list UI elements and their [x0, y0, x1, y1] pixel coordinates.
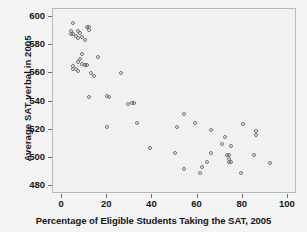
data-point — [223, 135, 227, 139]
data-point — [229, 144, 233, 148]
data-point — [220, 142, 224, 146]
data-point — [87, 28, 91, 32]
data-point — [80, 52, 84, 56]
x-tick-label: 0 — [46, 199, 76, 209]
data-point — [193, 121, 197, 125]
data-point — [205, 160, 209, 164]
data-point — [132, 101, 136, 105]
x-tick-label: 20 — [91, 199, 121, 209]
data-point — [198, 171, 202, 175]
y-tick-mark — [48, 16, 52, 17]
data-point — [175, 125, 179, 129]
data-point — [268, 161, 272, 165]
data-point — [252, 153, 256, 157]
y-tick-mark — [48, 72, 52, 73]
data-point — [173, 151, 177, 155]
x-tick-label: 80 — [227, 199, 257, 209]
data-point — [119, 71, 123, 75]
y-tick-mark — [48, 129, 52, 130]
data-point — [71, 21, 75, 25]
data-point — [83, 38, 87, 42]
data-point — [209, 128, 213, 132]
data-point — [239, 171, 243, 175]
y-tick-mark — [48, 44, 52, 45]
y-axis-title: Average SAT verbal in 2005 — [22, 9, 33, 189]
data-point — [92, 74, 96, 78]
data-point — [241, 122, 245, 126]
plot-area — [52, 8, 296, 193]
x-axis-title: Percentage of Eligible Students Taking t… — [0, 215, 307, 226]
data-point — [105, 125, 109, 129]
data-point — [76, 36, 80, 40]
data-point — [107, 95, 111, 99]
data-point — [87, 95, 91, 99]
data-point — [254, 133, 258, 137]
y-tick-mark — [48, 101, 52, 102]
data-point — [182, 112, 186, 116]
y-tick-mark — [48, 185, 52, 186]
x-tick-label: 100 — [272, 199, 302, 209]
data-point — [126, 102, 130, 106]
data-point — [182, 167, 186, 171]
data-point — [209, 151, 213, 155]
scatter-plot-figure: 480500520540560580600 Average SAT verbal… — [0, 0, 307, 232]
x-tick-label: 40 — [136, 199, 166, 209]
data-point — [96, 55, 100, 59]
data-point — [229, 160, 233, 164]
data-point — [78, 57, 82, 61]
data-point — [200, 165, 204, 169]
data-point — [76, 69, 80, 73]
data-point — [148, 146, 152, 150]
y-tick-mark — [48, 157, 52, 158]
data-points-layer — [53, 9, 295, 192]
data-point — [85, 63, 89, 67]
data-point — [135, 121, 139, 125]
x-tick-label: 60 — [182, 199, 212, 209]
